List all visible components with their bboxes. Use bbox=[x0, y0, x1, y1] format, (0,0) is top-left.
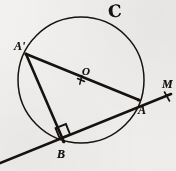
geometry-canvas bbox=[0, 0, 176, 171]
label-point-a: A bbox=[138, 104, 146, 116]
label-point-a-prime: A' bbox=[14, 40, 25, 52]
label-ray-end-m: M bbox=[162, 78, 173, 90]
vertex-dot-b bbox=[62, 140, 65, 143]
geometry-figure: C A' O M A B bbox=[0, 0, 176, 171]
label-circle-c: C bbox=[107, 3, 122, 21]
label-center-o: O bbox=[82, 66, 90, 77]
label-point-b: B bbox=[57, 148, 65, 160]
vertex-dot-a bbox=[137, 98, 140, 101]
